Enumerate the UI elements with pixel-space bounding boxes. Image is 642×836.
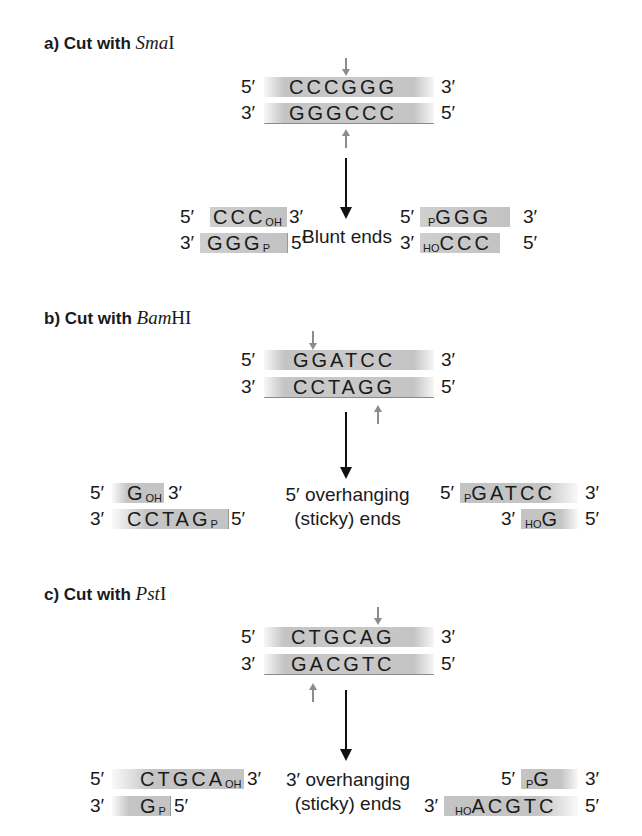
top-strand-sequence: CTGCAG <box>291 626 395 648</box>
fragment-sequence: PG <box>526 768 552 795</box>
result-arrow-icon <box>345 690 347 752</box>
result-label-line1: 3′ overhanging <box>263 768 433 792</box>
sequence-text: G <box>533 768 552 790</box>
result-arrow-icon <box>345 158 347 210</box>
enzyme-name: BamHI <box>137 307 192 328</box>
terminal-group: HO <box>455 805 472 817</box>
strand-end-label: 3′ <box>424 795 438 817</box>
strand-end-label: 5′ <box>241 349 255 371</box>
terminal-group: P <box>159 805 166 817</box>
enzyme-roman: HI <box>171 307 191 328</box>
terminal-group: HO <box>423 242 440 254</box>
top-cut-arrow-icon <box>312 331 314 345</box>
strand-end-label: 5′ <box>440 482 454 504</box>
fragment-sequence: CTGCAOH <box>140 768 242 795</box>
bottom-strand-sequence: GACGTC <box>291 653 395 675</box>
enzyme-name: PstI <box>136 583 167 604</box>
enzyme-name: SmaI <box>136 32 175 53</box>
enzyme-italic: Pst <box>136 583 160 604</box>
strand-end-label: 3′ <box>180 232 194 254</box>
terminal-group: P <box>211 518 218 530</box>
fragment-sequence: HOG <box>525 508 560 535</box>
section-b-title: b) Cut with BamHI <box>44 307 191 329</box>
fragment-sequence: HOCCC <box>423 232 492 259</box>
strand-end-label: 3′ <box>289 206 303 228</box>
result-label: 3′ overhanging (sticky) ends <box>263 768 433 816</box>
sequence-text: G <box>542 508 561 530</box>
strand-end-label: 3′ <box>523 206 537 228</box>
fragment-sequence: CCCOH <box>213 206 282 233</box>
strand-end-label: 3′ <box>241 102 255 124</box>
sequence-text: GGG <box>207 232 263 254</box>
result-label-line2: (sticky) ends <box>263 792 433 816</box>
sequence-text: CCC <box>213 206 265 228</box>
terminal-group: HO <box>525 518 542 530</box>
terminal-group: OH <box>225 778 242 790</box>
strand-end-label: 3′ <box>241 376 255 398</box>
fragment-sequence: GGGP <box>207 232 270 259</box>
top-strand-sequence: GGATCC <box>293 349 395 371</box>
top-cut-arrow-icon <box>345 58 347 71</box>
strand-end-label: 3′ <box>441 76 455 98</box>
result-label-line1: 5′ overhanging <box>265 483 430 507</box>
fragment-sequence: GP <box>140 795 166 822</box>
sequence-text: GATCC <box>471 482 555 504</box>
fragment-sequence: GOH <box>127 482 162 509</box>
strand-end-label: 5′ <box>585 508 599 530</box>
strand-end-label: 5′ <box>90 768 104 790</box>
strand-end-label: 5′ <box>241 76 255 98</box>
strand-end-label: 3′ <box>90 508 104 530</box>
bottom-cut-arrow-icon <box>312 688 314 702</box>
result-label: Blunt ends <box>290 225 404 249</box>
top-cut-arrow-icon <box>377 607 379 620</box>
strand-end-label: 5′ <box>90 482 104 504</box>
result-label: 5′ overhanging (sticky) ends <box>265 483 430 531</box>
strand-end-label: 3′ <box>247 768 261 790</box>
title-prefix: b) Cut with <box>44 309 137 328</box>
strand-end-label: 5′ <box>441 376 455 398</box>
strand-end-label: 5′ <box>400 206 414 228</box>
strand-end-label: 5′ <box>523 232 537 254</box>
strand-end-label: 5′ <box>180 206 194 228</box>
bottom-cut-arrow-icon <box>377 410 379 424</box>
fragment-sequence: PGGG <box>428 206 491 233</box>
sequence-text: CCTAG <box>127 508 211 530</box>
title-prefix: c) Cut with <box>44 585 136 604</box>
strand-end-label: 3′ <box>441 626 455 648</box>
section-c-title: c) Cut with PstI <box>44 583 166 605</box>
strand-end-label: 5′ <box>174 795 188 817</box>
result-arrow-icon <box>345 412 347 470</box>
strand-end-label: 5′ <box>441 102 455 124</box>
strand-end-label: 5′ <box>241 626 255 648</box>
sequence-text: G <box>127 482 146 504</box>
strand-end-label: 3′ <box>90 795 104 817</box>
sequence-text: CCC <box>440 232 492 254</box>
enzyme-roman: I <box>168 32 174 53</box>
strand-end-label: 3′ <box>441 349 455 371</box>
strand-end-label: 5′ <box>231 508 245 530</box>
strand-end-label: 3′ <box>585 768 599 790</box>
strand-end-label: 5′ <box>291 232 305 254</box>
fragment-sequence: HOACGTC <box>455 795 557 822</box>
terminal-group: OH <box>146 492 163 504</box>
strand-end-label: 5′ <box>441 653 455 675</box>
sequence-text: GGG <box>435 206 491 228</box>
result-label-line2: (sticky) ends <box>265 507 430 531</box>
terminal-group: OH <box>265 216 282 228</box>
strand-end-label: 3′ <box>400 232 414 254</box>
strand-end-label: 3′ <box>501 508 515 530</box>
fragment-sequence: CCTAGP <box>127 508 218 535</box>
enzyme-italic: Bam <box>137 307 172 328</box>
sequence-text: G <box>140 795 159 817</box>
sequence-text: ACGTC <box>472 795 557 817</box>
enzyme-roman: I <box>160 583 166 604</box>
strand-end-label: 5′ <box>501 768 515 790</box>
terminal-group: P <box>263 242 270 254</box>
sequence-text: CTGCA <box>140 768 225 790</box>
title-prefix: a) Cut with <box>44 34 136 53</box>
bottom-strand-sequence: GGGCCC <box>289 102 397 124</box>
bottom-strand-sequence: CCTAGG <box>293 376 395 398</box>
fragment-sequence: PGATCC <box>464 482 555 509</box>
strand-end-label: 3′ <box>585 482 599 504</box>
strand-end-label: 3′ <box>168 482 182 504</box>
